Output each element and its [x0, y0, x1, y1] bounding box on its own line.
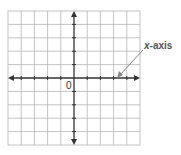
- coordinate-grid: [0, 0, 181, 155]
- x-axis-right-arrow-icon: [134, 75, 140, 81]
- x-axis-left-arrow-icon: [8, 75, 14, 81]
- x-axis-label-text: -axis: [150, 40, 173, 51]
- y-axis-down-arrow-icon: [71, 139, 77, 145]
- x-axis-pointer-arrow: [117, 50, 143, 78]
- origin-label: 0: [66, 80, 72, 91]
- x-axis-label: x-axis: [144, 40, 172, 51]
- y-axis-up-arrow-icon: [71, 11, 77, 17]
